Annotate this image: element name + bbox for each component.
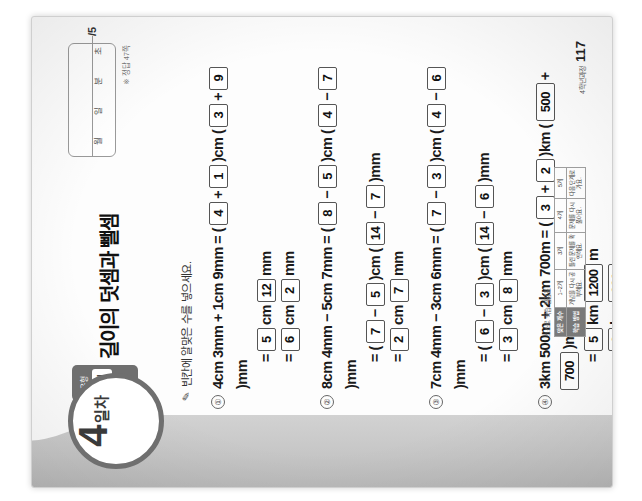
- answer-box[interactable]: 3: [209, 103, 228, 126]
- expression-text: cm: [279, 304, 301, 326]
- instruction-row: ✎ 빈칸에 알맞은 수를 넣으세요.: [178, 261, 194, 401]
- footer: 4학년과정 117: [573, 41, 588, 94]
- answer-box[interactable]: 200: [608, 264, 613, 302]
- expression-text: m: [606, 247, 613, 261]
- answer-box[interactable]: 4: [427, 103, 446, 126]
- expression-line: =6km200m: [606, 43, 613, 363]
- answer-box[interactable]: 4: [209, 201, 228, 224]
- answer-box[interactable]: 500: [536, 83, 555, 121]
- expression-text: =: [256, 353, 278, 363]
- answer-box[interactable]: 14: [366, 222, 385, 245]
- expression-text: cm: [388, 304, 410, 326]
- answer-box[interactable]: 5: [584, 328, 603, 351]
- self-check-cell: 다음 단계로 가요.: [567, 167, 586, 198]
- answer-box[interactable]: 1200: [584, 264, 603, 302]
- answer-box[interactable]: 6: [427, 66, 446, 89]
- answer-box[interactable]: 3: [427, 164, 446, 187]
- self-check-table: 맞은 개수1~2개3개4개5개학습 방법개념을 다시 공부해요.틀린 문제를 확…: [554, 167, 586, 337]
- expression-text: )km (: [535, 123, 557, 157]
- answer-box[interactable]: 8: [318, 201, 337, 224]
- self-check-table-wrap: 스스로 학습 점검표 맞은 개수1~2개3개4개5개학습 방법개념을 다시 공부…: [542, 167, 586, 337]
- footer-label: 4학년과정: [577, 65, 587, 93]
- answer-box[interactable]: 6: [608, 328, 613, 351]
- answer-box[interactable]: 4: [318, 103, 337, 126]
- expression-text: )cm (: [365, 247, 387, 281]
- minute-writing-line: [81, 66, 93, 96]
- answer-box[interactable]: 2: [281, 279, 300, 302]
- expression-text: 4cm 3mm + 1cm 9mm = (: [208, 226, 230, 389]
- instruction-text: 빈칸에 알맞은 수를 넣으세요.: [178, 261, 194, 387]
- answer-box[interactable]: 3: [499, 328, 518, 351]
- problem-continuation-line: =6km200m: [606, 43, 613, 363]
- expression-text: )mm: [450, 358, 472, 389]
- workbook-page: 4 일차 유형 B형 길이의 덧셈과 뺄셈 월 일 분: [31, 16, 613, 488]
- answer-box[interactable]: 7: [366, 320, 385, 343]
- expression-text: −: [317, 189, 339, 199]
- self-check-cell: 1~2개: [555, 269, 567, 307]
- expression-text: −: [426, 91, 448, 101]
- expression-text: 7cm 4mm − 3cm 6mm = (: [426, 226, 448, 389]
- answer-box[interactable]: 6: [281, 328, 300, 351]
- expression-text: )mm: [341, 358, 363, 389]
- expression-line: =6cm2mm: [279, 43, 301, 363]
- expression-text: cm: [256, 304, 278, 326]
- answer-box[interactable]: 7: [318, 66, 337, 89]
- answer-box[interactable]: 5: [366, 283, 385, 306]
- self-check-cell: 틀린 문제를 확인해요.: [567, 232, 586, 269]
- expression-line: 8cm 4mm − 5cm 7mm = (8−5)cm (4−7)mm: [317, 43, 363, 390]
- expression-text: mm: [388, 250, 410, 277]
- expression-line: = (7−5)cm (14−7)mm: [365, 43, 387, 363]
- expression-line: =5cm12mm: [256, 43, 278, 363]
- problem-item: ②8cm 4mm − 5cm 7mm = (8−5)cm (4−7)mm= (7…: [317, 43, 410, 409]
- page-number: 117: [573, 41, 588, 62]
- day-field: 일: [81, 96, 103, 126]
- answer-box[interactable]: 3: [475, 283, 494, 306]
- expression-text: =: [606, 353, 613, 363]
- day-writing-line: [81, 96, 93, 126]
- answer-box[interactable]: 12: [257, 279, 276, 302]
- answer-box[interactable]: 2: [390, 328, 409, 351]
- expression-text: =: [279, 353, 301, 363]
- answer-box[interactable]: 9: [209, 66, 228, 89]
- problem-number: ③: [429, 395, 443, 409]
- answer-box[interactable]: 700: [560, 352, 579, 390]
- expression-line: =2cm7mm: [388, 43, 410, 363]
- expression-text: −: [365, 308, 387, 318]
- self-check-cell: 개념을 다시 공부해요.: [567, 269, 586, 307]
- answer-box[interactable]: 14: [475, 222, 494, 245]
- expression-text: +: [208, 189, 230, 199]
- problem-continuation-line: =3cm8mm: [497, 43, 519, 363]
- self-check-cell: 4개: [555, 198, 567, 232]
- problem-first-line: ①4cm 3mm + 1cm 9mm = (4+1)cm (3+9)mm: [208, 43, 254, 409]
- expression-text: mm: [256, 250, 278, 277]
- answer-box[interactable]: 6: [475, 185, 494, 208]
- expression-text: 8cm 4mm − 5cm 7mm = (: [317, 226, 339, 389]
- expression-text: −: [426, 189, 448, 199]
- answer-box[interactable]: 8: [499, 279, 518, 302]
- expression-text: −: [317, 91, 339, 101]
- self-check-cell: 문제를 다시 풀어요.: [567, 198, 586, 232]
- score-field: /5: [86, 26, 98, 35]
- answer-box[interactable]: 7: [427, 201, 446, 224]
- day-unit-label: 일차: [90, 395, 111, 423]
- problem-number: ①: [211, 395, 225, 409]
- self-check-row: 맞은 개수1~2개3개4개5개: [555, 167, 567, 336]
- expression-line: 4cm 3mm + 1cm 9mm = (4+1)cm (3+9)mm: [208, 43, 254, 390]
- second-label: 초: [94, 47, 103, 55]
- expression-text: −: [474, 308, 496, 318]
- expression-text: mm: [279, 250, 301, 277]
- answer-box[interactable]: 6: [475, 320, 494, 343]
- expression-text: )cm (: [474, 247, 496, 281]
- answer-box[interactable]: 7: [390, 279, 409, 302]
- date-score-box: 월 일 분 초 /5: [68, 43, 116, 157]
- expression-text: −: [474, 210, 496, 220]
- expression-text: = (: [474, 345, 496, 363]
- expression-text: mm: [497, 250, 519, 277]
- answer-box[interactable]: 1: [209, 164, 228, 187]
- problem-item: ①4cm 3mm + 1cm 9mm = (4+1)cm (3+9)mm=5cm…: [208, 43, 301, 409]
- answer-box[interactable]: 5: [318, 164, 337, 187]
- expression-text: )cm (: [317, 128, 339, 162]
- answer-box[interactable]: 7: [366, 185, 385, 208]
- second-field: 초: [81, 36, 103, 66]
- answer-box[interactable]: 5: [257, 328, 276, 351]
